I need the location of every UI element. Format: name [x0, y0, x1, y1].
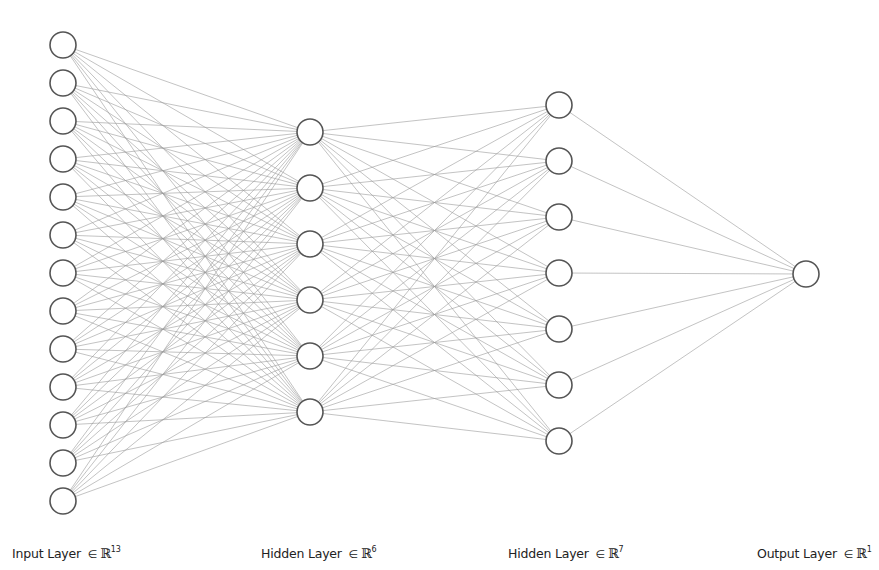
- connection-edge: [63, 244, 310, 425]
- hidden2-neuron-1: [546, 92, 572, 118]
- connection-edge: [63, 356, 310, 501]
- connection-edge: [310, 217, 559, 412]
- connection-edge: [63, 121, 310, 244]
- hidden1-neuron-6: [297, 399, 323, 425]
- connection-edge: [63, 188, 310, 501]
- real-set-symbol: ℝ: [608, 546, 619, 561]
- connection-edge: [63, 244, 310, 501]
- hidden1-neuron-2: [297, 175, 323, 201]
- connection-edge: [559, 273, 806, 274]
- connection-edge: [63, 412, 310, 463]
- hidden2-neuron-2: [546, 148, 572, 174]
- hidden2-neuron-7: [546, 428, 572, 454]
- connection-edges: [63, 45, 806, 501]
- connection-edge: [559, 105, 806, 274]
- connection-edge: [63, 121, 310, 132]
- hidden2-neuron-3: [546, 204, 572, 230]
- layer-name: Hidden Layer: [261, 546, 342, 561]
- connection-edge: [310, 105, 559, 244]
- hidden2-neuron-6: [546, 372, 572, 398]
- connection-edge: [63, 300, 310, 501]
- connection-edge: [63, 132, 310, 159]
- connection-edge: [559, 274, 806, 385]
- connection-edge: [310, 105, 559, 300]
- connection-edge: [63, 45, 310, 244]
- hidden-layer-2-label: Hidden Layer ∈ℝ7: [508, 546, 623, 561]
- connection-edge: [63, 132, 310, 463]
- connection-edge: [63, 121, 310, 300]
- input-neuron-5: [50, 184, 76, 210]
- connection-edge: [310, 105, 559, 412]
- hidden1-neuron-5: [297, 343, 323, 369]
- real-set-symbol: ℝ: [361, 546, 372, 561]
- hidden2-neuron-5: [546, 316, 572, 342]
- connection-edge: [63, 356, 310, 387]
- layer-name: Output Layer: [757, 546, 837, 561]
- connection-edge: [63, 412, 310, 501]
- output-neuron-1: [793, 261, 819, 287]
- connection-edge: [559, 274, 806, 329]
- input-neuron-9: [50, 336, 76, 362]
- connection-edge: [310, 105, 559, 356]
- neural-network-diagram: [0, 0, 879, 570]
- layer-name: Input Layer: [12, 546, 81, 561]
- connection-edge: [63, 45, 310, 188]
- input-neuron-11: [50, 412, 76, 438]
- connection-edge: [310, 412, 559, 441]
- hidden1-neuron-4: [297, 287, 323, 313]
- connection-edge: [559, 217, 806, 274]
- connection-edge: [310, 273, 559, 412]
- input-neuron-6: [50, 222, 76, 248]
- connection-edge: [63, 188, 310, 197]
- element-of-symbol: ∈: [88, 548, 97, 561]
- connection-edge: [310, 329, 559, 412]
- hidden1-neuron-1: [297, 119, 323, 145]
- output-layer-label: Output Layer ∈ℝ1: [757, 546, 872, 561]
- real-set-symbol: ℝ: [100, 546, 111, 561]
- connection-edge: [63, 412, 310, 425]
- layer-dimension: 7: [619, 545, 624, 554]
- input-neuron-4: [50, 146, 76, 172]
- connection-edge: [310, 385, 559, 412]
- connection-edge: [63, 188, 310, 311]
- layer-dimension: 13: [111, 545, 121, 554]
- input-neuron-12: [50, 450, 76, 476]
- input-layer-label: Input Layer ∈ℝ13: [12, 546, 121, 561]
- hidden-layer-1-label: Hidden Layer ∈ℝ6: [261, 546, 376, 561]
- connection-edge: [63, 159, 310, 244]
- connection-edge: [559, 161, 806, 274]
- layer-dimension: 6: [372, 545, 377, 554]
- real-set-symbol: ℝ: [856, 546, 867, 561]
- hidden2-neuron-4: [546, 260, 572, 286]
- connection-edge: [63, 273, 310, 412]
- connection-edge: [63, 121, 310, 188]
- connection-edge: [63, 349, 310, 356]
- connection-edge: [63, 244, 310, 311]
- hidden1-neuron-3: [297, 231, 323, 257]
- input-neuron-13: [50, 488, 76, 514]
- input-neuron-10: [50, 374, 76, 400]
- input-neuron-7: [50, 260, 76, 286]
- connection-edge: [63, 132, 310, 273]
- layer-dimension: 1: [867, 545, 872, 554]
- element-of-symbol: ∈: [844, 548, 853, 561]
- element-of-symbol: ∈: [596, 548, 605, 561]
- input-neuron-1: [50, 32, 76, 58]
- input-neuron-8: [50, 298, 76, 324]
- element-of-symbol: ∈: [349, 548, 358, 561]
- connection-edge: [63, 349, 310, 412]
- connection-edge: [63, 235, 310, 356]
- connection-edge: [310, 161, 559, 412]
- layer-name: Hidden Layer: [508, 546, 589, 561]
- connection-edge: [63, 132, 310, 311]
- connection-edge: [559, 274, 806, 441]
- connection-edge: [63, 188, 310, 425]
- input-neuron-3: [50, 108, 76, 134]
- connection-edge: [310, 105, 559, 132]
- connection-edge: [63, 45, 310, 132]
- connection-edge: [63, 235, 310, 244]
- connection-edge: [63, 121, 310, 356]
- connection-edge: [310, 105, 559, 188]
- input-neuron-2: [50, 70, 76, 96]
